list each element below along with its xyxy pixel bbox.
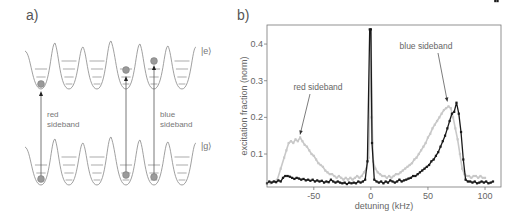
- y-tick-label: 0.1: [250, 149, 263, 159]
- series-gray-point: [297, 140, 299, 142]
- series-black-point: [380, 180, 382, 182]
- series-black-point: [469, 180, 471, 182]
- series-gray-point: [422, 146, 424, 148]
- series-black-point: [300, 179, 302, 181]
- series-gray-point: [356, 175, 358, 177]
- series-gray-point: [326, 171, 328, 173]
- series-gray-point: [294, 138, 296, 140]
- series-gray-point: [447, 105, 449, 107]
- series-black-point: [433, 158, 435, 160]
- series-black-point: [316, 179, 318, 181]
- series-gray-point: [406, 166, 408, 168]
- series-black-point: [348, 182, 350, 184]
- series-black-point: [387, 182, 389, 184]
- blue-sideband-arrow-1: [124, 76, 128, 174]
- red-sideband-label-line1: red: [47, 110, 59, 119]
- series-gray-point: [313, 155, 315, 157]
- series-gray-point: [390, 177, 392, 179]
- ground-state-label: |g⟩: [201, 141, 212, 151]
- series-black-point: [286, 175, 288, 177]
- series-black-point: [337, 180, 339, 182]
- series-gray-point: [288, 142, 290, 144]
- series-black-point: [453, 111, 455, 113]
- series-black-point: [382, 182, 384, 184]
- series-black-point: [407, 177, 409, 179]
- atom-excited-1: [38, 81, 45, 88]
- series-gray-point: [283, 157, 285, 159]
- series-black-point: [492, 180, 494, 182]
- x-axis-label: detuning (kHz): [355, 201, 414, 211]
- atom-excited-2: [123, 67, 130, 74]
- series-black-point: [370, 28, 372, 30]
- y-axis-label: excitation fraction (norm): [239, 56, 249, 155]
- series-gray-point: [402, 169, 404, 171]
- series-black-point: [435, 155, 437, 157]
- series-black-point: [371, 142, 373, 144]
- series-black-point: [403, 179, 405, 181]
- series-black-point: [350, 182, 352, 184]
- series-black-point: [296, 177, 298, 179]
- series-gray-point: [470, 177, 472, 179]
- series-black-point: [487, 182, 489, 184]
- series-gray-point: [331, 173, 333, 175]
- series-black-point: [414, 175, 416, 177]
- series-black-point: [410, 177, 412, 179]
- series-gray-point: [431, 127, 433, 129]
- series-gray-point: [459, 153, 461, 155]
- series-gray-point: [306, 146, 308, 148]
- series-gray-point: [457, 138, 459, 140]
- annotation-arrowhead: [299, 130, 303, 134]
- series-gray-line: [270, 29, 485, 183]
- series-black-point: [449, 120, 451, 122]
- series-gray-point: [336, 177, 338, 179]
- annotation-red-sideband: red sideband: [293, 82, 342, 92]
- y-tick-label: 0.4: [250, 39, 263, 49]
- series-gray-point: [420, 149, 422, 151]
- series-black-point: [412, 175, 414, 177]
- series-black-point: [385, 180, 387, 182]
- plot-frame: [267, 25, 501, 187]
- series-black-point: [471, 182, 473, 184]
- panel-b: b) excitation fraction (norm) detuning (…: [237, 0, 501, 211]
- annotation-arrow: [438, 53, 447, 102]
- excited-lattice-potential: [25, 41, 196, 89]
- series-black-point: [346, 183, 348, 185]
- series-black-point: [353, 182, 355, 184]
- series-black-point: [378, 182, 380, 184]
- panel-a: a) |e⟩ |g⟩ red sideband blue sideband: [25, 7, 212, 185]
- figure: a) |e⟩ |g⟩ red sideband blue sideband: [0, 0, 527, 217]
- series-gray-point: [352, 179, 354, 181]
- series-gray-point: [468, 175, 470, 177]
- x-tick-label: 50: [423, 191, 433, 201]
- series-gray-point: [409, 164, 411, 166]
- series-black-point: [398, 179, 400, 181]
- atom-ground-1: [38, 176, 45, 183]
- series-gray-point: [415, 157, 417, 159]
- series-black-point: [419, 171, 421, 173]
- atom-excited-3: [151, 58, 158, 65]
- series-gray-point: [345, 177, 347, 179]
- red-sideband-arrow: [39, 91, 43, 177]
- series-gray-point: [358, 177, 360, 179]
- series-gray-point: [342, 179, 344, 181]
- series-black-point: [305, 179, 307, 181]
- series-black-point: [325, 180, 327, 182]
- panel-a-label: a): [26, 7, 38, 23]
- series-black-point: [375, 180, 377, 182]
- series-black-point: [442, 140, 444, 142]
- series-black-point: [485, 180, 487, 182]
- series-gray-point: [363, 171, 365, 173]
- y-tick-label: 0.2: [250, 112, 263, 122]
- series-black-point: [277, 179, 279, 181]
- series-black-point: [467, 180, 469, 182]
- series-gray-point: [320, 164, 322, 166]
- series-black-point: [362, 180, 364, 182]
- series-black-point: [307, 179, 309, 181]
- series-black-point: [430, 160, 432, 162]
- series-black-point: [334, 182, 336, 184]
- series-black-point: [282, 177, 284, 179]
- series-gray-point: [484, 177, 486, 179]
- series-gray-point: [436, 120, 438, 122]
- series-gray-point: [292, 142, 294, 144]
- series-black-point: [366, 160, 368, 162]
